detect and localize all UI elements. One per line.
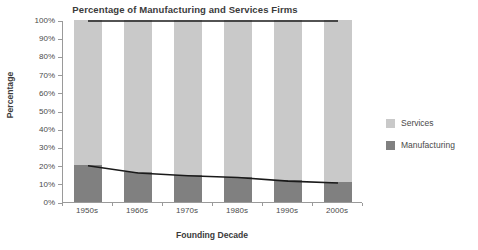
x-tick-label: 1960s xyxy=(112,206,162,215)
legend-swatch-icon xyxy=(386,119,395,128)
x-tick-label: 1950s xyxy=(62,206,112,215)
legend-item[interactable]: Manufacturing xyxy=(386,140,476,150)
y-tick: 10% xyxy=(0,180,62,190)
bar-segment-services[interactable] xyxy=(124,20,152,172)
bar-segment-manufacturing[interactable] xyxy=(124,172,152,202)
bar-segment-manufacturing[interactable] xyxy=(224,177,252,202)
y-tick-label: 30% xyxy=(39,143,55,153)
bar-group[interactable] xyxy=(74,20,102,202)
bar-segment-manufacturing[interactable] xyxy=(274,180,302,202)
y-tick-label: 90% xyxy=(39,34,55,44)
y-tick: 50% xyxy=(0,107,62,117)
y-tick: 80% xyxy=(0,52,62,62)
plot-area xyxy=(62,21,362,203)
bar-segment-manufacturing[interactable] xyxy=(174,175,202,202)
y-tick-label: 100% xyxy=(35,16,55,26)
plot-inner xyxy=(63,21,362,202)
chart-container: Percentage of Manufacturing and Services… xyxy=(0,0,478,250)
legend-item[interactable]: Services xyxy=(386,118,476,128)
chart-title: Percentage of Manufacturing and Services… xyxy=(0,4,370,15)
bar-segment-manufacturing[interactable] xyxy=(324,182,352,202)
bar-segment-services[interactable] xyxy=(74,20,102,165)
y-tick: 40% xyxy=(0,125,62,135)
y-tick-label: 70% xyxy=(39,71,55,81)
y-tick-label: 80% xyxy=(39,52,55,62)
bar-group[interactable] xyxy=(174,20,202,202)
y-tick: 70% xyxy=(0,71,62,81)
x-axis-title: Founding Decade xyxy=(62,230,362,240)
bar-segment-services[interactable] xyxy=(324,20,352,182)
chart-legend: ServicesManufacturing xyxy=(386,118,476,162)
y-tick-label: 20% xyxy=(39,162,55,172)
bar-group[interactable] xyxy=(224,20,252,202)
y-tick: 100% xyxy=(0,16,62,26)
bar-segment-services[interactable] xyxy=(224,20,252,177)
x-axis-ticks: 1950s1960s1970s1980s1990s2000s xyxy=(62,206,362,222)
x-tick-label: 1970s xyxy=(162,206,212,215)
y-tick-label: 50% xyxy=(39,107,55,117)
bar-segment-services[interactable] xyxy=(274,20,302,180)
y-tick-label: 10% xyxy=(39,180,55,190)
line-overlay xyxy=(63,21,363,203)
y-tick-label: 40% xyxy=(39,125,55,135)
y-tick-label: 0% xyxy=(43,198,55,208)
x-tick-label: 1990s xyxy=(262,206,312,215)
y-tick: 0% xyxy=(0,198,62,208)
y-tick: 20% xyxy=(0,162,62,172)
legend-swatch-icon xyxy=(386,141,395,150)
x-tick-mark xyxy=(362,203,363,206)
bar-group[interactable] xyxy=(124,20,152,202)
y-tick: 30% xyxy=(0,143,62,153)
y-tick: 90% xyxy=(0,34,62,44)
bar-segment-manufacturing[interactable] xyxy=(74,165,102,202)
y-tick: 60% xyxy=(0,89,62,99)
legend-label: Services xyxy=(401,118,434,128)
bar-group[interactable] xyxy=(274,20,302,202)
bar-segment-services[interactable] xyxy=(174,20,202,175)
bar-group[interactable] xyxy=(324,20,352,202)
y-tick-label: 60% xyxy=(39,89,55,99)
y-axis-ticks: 100%90%80%70%60%50%40%30%20%10%0% xyxy=(0,21,62,203)
x-tick-label: 2000s xyxy=(312,206,362,215)
legend-label: Manufacturing xyxy=(401,140,455,150)
x-tick-label: 1980s xyxy=(212,206,262,215)
